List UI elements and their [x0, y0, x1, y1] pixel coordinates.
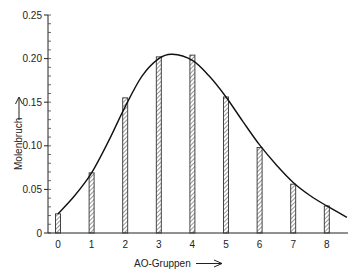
bar [324, 206, 329, 233]
bar [156, 57, 161, 233]
bar [123, 98, 128, 233]
x-tick-label: 3 [156, 239, 162, 250]
x-axis-label: AO-Gruppen [134, 258, 191, 269]
fitted-curve [58, 54, 347, 217]
bar [291, 184, 296, 233]
x-tick-label: 2 [122, 239, 128, 250]
bar [56, 214, 61, 233]
x-tick-label: 4 [190, 239, 196, 250]
right-arrow-icon [196, 260, 222, 267]
y-tick-label: 0.05 [23, 184, 43, 195]
y-axis-label: Molenbruch [13, 118, 24, 170]
x-tick-label: 6 [257, 239, 263, 250]
up-arrow-icon [16, 97, 23, 120]
bar [190, 55, 195, 233]
bar [89, 173, 94, 233]
bar [257, 148, 262, 233]
y-tick-label: 0.15 [23, 97, 43, 108]
bar [224, 97, 229, 233]
x-axis: 012345678 [48, 233, 348, 250]
x-tick-label: 5 [223, 239, 229, 250]
y-tick-label: 0.20 [23, 53, 43, 64]
x-tick-label: 7 [290, 239, 296, 250]
chart: 00.050.100.150.200.25 012345678 Molenbru… [0, 0, 358, 277]
y-tick-label: 0 [36, 228, 42, 239]
y-tick-label: 0.25 [23, 10, 43, 21]
x-tick-label: 1 [89, 239, 95, 250]
y-axis-label-group: Molenbruch [13, 97, 24, 170]
y-tick-label: 0.10 [23, 140, 43, 151]
x-tick-label: 0 [55, 239, 61, 250]
x-tick-label: 8 [324, 239, 330, 250]
x-axis-label-group: AO-Gruppen [134, 258, 222, 269]
bar-series [56, 55, 330, 233]
y-axis: 00.050.100.150.200.25 [23, 10, 51, 239]
